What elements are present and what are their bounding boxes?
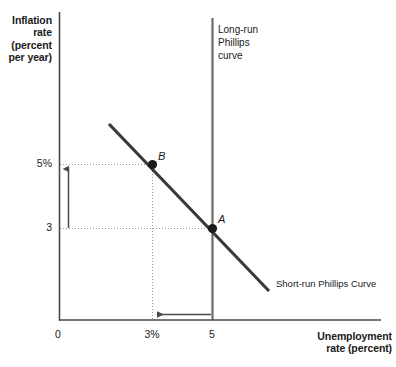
data-point-markers [148,160,217,233]
short-run-phillips-curve-line [109,124,269,291]
short-run-phillips-curve-label: Short-run Phillips Curve [276,278,376,289]
point-label-b: B [158,150,165,163]
x-axis-tick-label-5: 5 [202,328,222,340]
x-axis-title: Unemployment rate (percent) [248,330,392,355]
y-axis-tick-label-3: 3 [24,221,52,233]
guide-lines [60,165,213,321]
phillips-curve-chart: Inflation rate (percent per year) Unempl… [0,0,396,367]
y-axis-tick-label-5: 5% [24,157,52,169]
long-run-phillips-curve-label: Long-run Phillips curve [218,23,258,63]
x-axis-tick-label-3: 3% [138,328,166,340]
point-marker-B[interactable] [148,160,157,169]
movement-arrows [69,169,212,315]
y-axis-title: Inflation rate (percent per year) [0,14,52,64]
x-axis-tick-label-0: 0 [48,328,68,340]
point-label-a: A [218,213,225,226]
point-marker-A[interactable] [208,224,217,233]
chart-canvas [0,0,396,367]
